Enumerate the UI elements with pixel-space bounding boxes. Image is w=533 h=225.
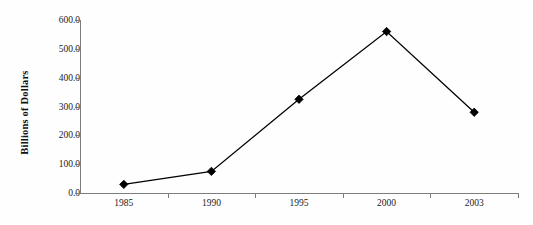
x-tick-label: 1990	[202, 198, 221, 208]
y-tick-label: 400.0	[34, 73, 80, 83]
series-marker-group	[120, 27, 479, 188]
y-tick-label: 200.0	[34, 130, 80, 140]
y-axis-line	[80, 20, 81, 194]
y-tick-label: 600.0	[34, 15, 80, 25]
x-tick-label: 2003	[465, 198, 484, 208]
x-tick-label: 2000	[377, 198, 396, 208]
series-data-point	[295, 95, 303, 103]
y-axis-tick-group: 0.0100.0200.0300.0400.0500.0600.0	[0, 0, 80, 225]
y-tick-label: 100.0	[34, 159, 80, 169]
x-axis-end-tick-mark	[518, 193, 519, 198]
x-tick-label: 1985	[114, 198, 133, 208]
series-line-billions-of-dollars	[124, 32, 474, 185]
y-tick-label: 500.0	[34, 44, 80, 54]
y-tick-label: 0.0	[34, 188, 80, 198]
series-data-point	[382, 27, 390, 35]
series-data-point	[120, 180, 128, 188]
series-data-point	[470, 108, 478, 116]
series-data-point	[207, 167, 215, 175]
line-chart-figure: Billions of Dollars 0.0100.0200.0300.040…	[0, 0, 533, 225]
y-tick-label: 300.0	[34, 102, 80, 112]
x-tick-label: 1995	[290, 198, 309, 208]
x-axis-line	[80, 193, 518, 194]
